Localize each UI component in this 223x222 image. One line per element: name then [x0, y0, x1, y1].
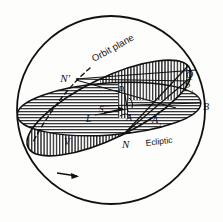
figure-canvas: Orbit plane Ecliptic N' N Q P 1 P B A A … — [0, 0, 223, 222]
point-B-label: B — [203, 101, 209, 112]
point-L-label: L — [85, 113, 92, 124]
point-A1-subscript: 1 — [159, 122, 162, 127]
node-descending-label: N' — [59, 72, 70, 84]
node-ascending-label: N — [121, 138, 130, 150]
point-P-label: P — [117, 84, 124, 95]
point-Q-label: Q — [186, 69, 194, 80]
point-A1-label: A — [151, 114, 159, 125]
point-P1-label: P — [183, 81, 190, 92]
point-A-label: A — [125, 112, 133, 123]
point-S-label: S — [99, 104, 104, 114]
celestial-sphere-figure: Orbit plane Ecliptic N' N Q P 1 P B A A … — [0, 0, 223, 222]
point-P1-subscript: 1 — [191, 89, 194, 94]
